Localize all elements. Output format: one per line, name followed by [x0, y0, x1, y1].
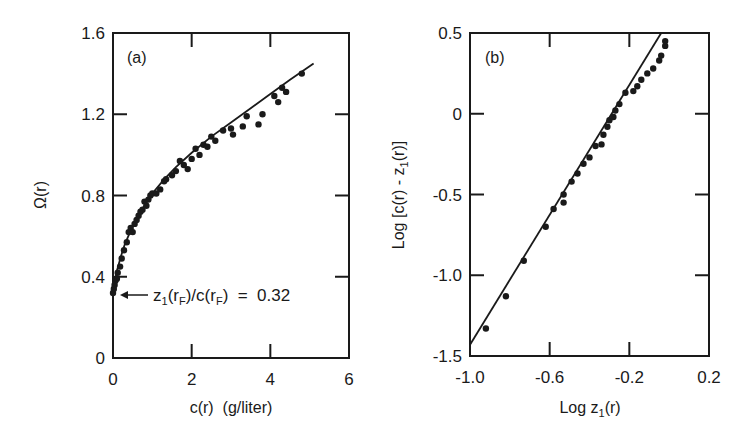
data-point	[604, 124, 610, 130]
data-point	[275, 99, 281, 105]
plot-frame-b	[470, 33, 709, 356]
arrow-head-icon	[120, 291, 128, 299]
panel-label-b: (b)	[485, 49, 505, 66]
data-point	[114, 276, 120, 282]
data-point	[115, 270, 121, 276]
data-point	[204, 144, 210, 150]
y-tick-label: 1.6	[81, 24, 105, 43]
y-axis-label-b: Log [c(r) - z1(r)]	[390, 141, 410, 249]
data-point	[283, 89, 289, 95]
data-point	[616, 101, 622, 107]
y-axis-label-a: Ω(r)	[32, 181, 49, 209]
data-point	[662, 38, 668, 44]
data-point	[586, 154, 592, 160]
data-point	[119, 255, 125, 261]
x-axis-label-b: Log z1(r)	[559, 399, 620, 419]
data-point	[600, 132, 606, 138]
figure: 024600.40.81.21.6 (a) c(r) (g/liter) Ω(r…	[0, 0, 749, 436]
data-point	[598, 141, 604, 147]
y-tick-label: -1.0	[433, 266, 462, 285]
panel-a: 024600.40.81.21.6 (a) c(r) (g/liter) Ω(r…	[32, 24, 354, 416]
data-point	[483, 325, 489, 331]
data-point	[543, 224, 549, 230]
x-tick-label: -0.6	[535, 368, 564, 387]
data-point	[124, 239, 130, 245]
y-tick-label: 0.8	[81, 187, 105, 206]
data-point	[574, 170, 580, 176]
data-point	[196, 152, 202, 158]
fit-line-b	[470, 33, 661, 345]
x-tick-label: 2	[187, 370, 196, 389]
panel-b: -1.0-0.6-0.20.2-1.5-1.0-0.500.5 (b) Log …	[390, 24, 721, 419]
data-point	[117, 263, 123, 269]
panel-label-a: (a)	[127, 49, 147, 66]
data-point	[568, 178, 574, 184]
data-point	[658, 52, 664, 58]
data-points-b	[483, 38, 669, 332]
data-point	[610, 114, 616, 120]
y-tick-label: 0.4	[81, 268, 105, 287]
y-tick-label: 0	[96, 349, 105, 368]
data-point	[259, 111, 265, 117]
data-point	[230, 131, 236, 137]
data-point	[157, 186, 163, 192]
data-point	[271, 93, 277, 99]
data-point	[228, 125, 234, 131]
data-point	[240, 123, 246, 129]
data-point	[503, 293, 509, 299]
fit-curve-a	[113, 64, 314, 294]
y-tick-label: -0.5	[433, 186, 462, 205]
y-tick-label: -1.5	[433, 347, 462, 366]
data-point	[592, 143, 598, 149]
annotation-text: z1(rF)/c(rF) = 0.32	[153, 286, 290, 307]
data-point	[560, 199, 566, 205]
data-point	[612, 107, 618, 113]
x-tick-label: 0	[108, 370, 117, 389]
x-tick-label: 6	[344, 370, 353, 389]
x-tick-label: -1.0	[455, 368, 484, 387]
data-point	[189, 156, 195, 162]
ticks-b: -1.0-0.6-0.20.2-1.5-1.0-0.500.5	[433, 24, 721, 387]
data-point	[244, 113, 250, 119]
data-point	[550, 206, 556, 212]
fit-line	[113, 64, 314, 294]
data-point	[521, 258, 527, 264]
data-point	[255, 121, 261, 127]
data-points-a	[110, 70, 305, 296]
data-point	[644, 70, 650, 76]
fit-line	[470, 33, 661, 345]
data-point	[192, 146, 198, 152]
data-point	[173, 168, 179, 174]
data-point	[580, 161, 586, 167]
y-tick-label: 1.2	[81, 105, 105, 124]
data-point	[622, 90, 628, 96]
x-tick-label: 4	[266, 370, 275, 389]
x-tick-label: 0.2	[697, 368, 721, 387]
data-point	[560, 191, 566, 197]
y-tick-label: 0	[453, 105, 462, 124]
data-point	[638, 77, 644, 83]
ticks-a: 024600.40.81.21.6	[81, 24, 353, 389]
data-point	[130, 229, 136, 235]
data-point	[220, 127, 226, 133]
data-point	[299, 70, 305, 76]
data-point	[163, 176, 169, 182]
x-tick-label: -0.2	[615, 368, 644, 387]
data-point	[650, 65, 656, 71]
data-point	[185, 166, 191, 172]
annotation-a: z1(rF)/c(rF) = 0.32	[120, 286, 290, 307]
data-point	[143, 203, 149, 209]
y-tick-label: 0.5	[438, 24, 462, 43]
x-axis-label-a: c(r) (g/liter)	[190, 399, 273, 416]
data-point	[121, 247, 127, 253]
data-point	[212, 138, 218, 144]
data-point	[634, 83, 640, 89]
